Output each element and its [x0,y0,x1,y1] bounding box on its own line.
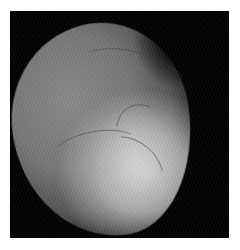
image-frame [10,11,229,238]
